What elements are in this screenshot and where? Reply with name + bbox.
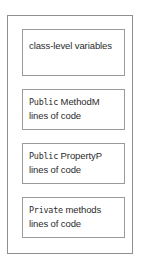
- compartment-line: class-level variables: [29, 39, 118, 53]
- line-text: MethodM: [58, 96, 99, 107]
- line-text: class-level variables: [29, 40, 112, 51]
- compartment-line: lines of code: [29, 217, 118, 231]
- class-structure-diagram: class-level variables Public MethodM lin…: [0, 0, 147, 274]
- line-text: lines of code: [29, 218, 81, 229]
- compartment-line: lines of code: [29, 163, 118, 177]
- line-text: lines of code: [29, 110, 81, 121]
- compartment-private-methods: Private methods lines of code: [22, 197, 125, 238]
- compartment-public-property-p: Public PropertyP lines of code: [22, 143, 125, 184]
- class-outer-box: class-level variables Public MethodM lin…: [7, 15, 133, 254]
- compartment-public-method-m: Public MethodM lines of code: [22, 89, 125, 130]
- keyword-text: Public: [29, 97, 58, 107]
- compartment-list: class-level variables Public MethodM lin…: [22, 29, 125, 251]
- compartment-line: Public MethodM: [29, 95, 118, 109]
- keyword-text: Private: [29, 205, 63, 215]
- line-text: methods: [63, 204, 101, 215]
- compartment-line: Public PropertyP: [29, 149, 118, 163]
- compartment-class-level-variables: class-level variables: [22, 29, 125, 76]
- line-text: lines of code: [29, 164, 81, 175]
- compartment-line: Private methods: [29, 203, 118, 217]
- compartment-line: lines of code: [29, 109, 118, 123]
- keyword-text: Public: [29, 151, 58, 161]
- line-text: PropertyP: [58, 150, 102, 161]
